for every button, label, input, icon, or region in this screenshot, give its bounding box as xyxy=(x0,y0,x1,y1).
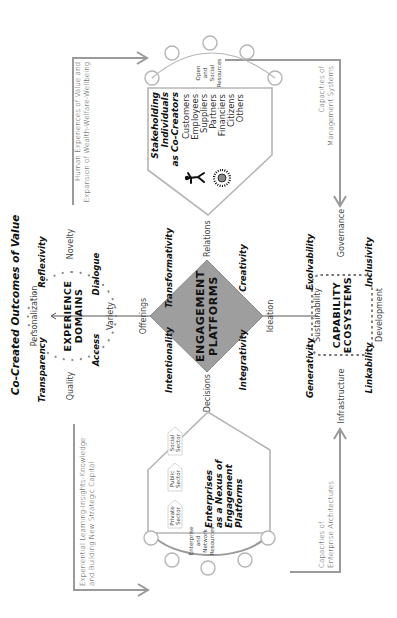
quality-dialogue: Dialogue xyxy=(91,252,101,295)
quality-evolvability: Evolvability xyxy=(305,233,315,290)
enterprise-resources-4: Resources xyxy=(209,527,215,556)
enterprises-title-3: Engagement xyxy=(224,463,234,528)
axis-development: Development xyxy=(375,288,384,342)
experience-domains-label-2: DOMAINS xyxy=(73,289,84,344)
vertex-relations: Relations xyxy=(203,220,212,257)
sector-public: Public Sector xyxy=(168,463,182,491)
enterprises-title-1: Enterprises xyxy=(204,469,214,528)
flow-experiential-line1: Experiential Learning-Insights-Knowledge xyxy=(78,438,87,586)
open-resources-2: and xyxy=(202,67,208,78)
axis-variety: Variety xyxy=(106,302,115,330)
axis-infrastructure: Infrastructure xyxy=(337,369,346,424)
enterprises-title-2: as a Nexus of xyxy=(214,459,224,528)
enterprise-resources-1: Enterprise xyxy=(188,526,195,555)
axis-sustainability: Sustainability xyxy=(313,288,322,342)
engagement-platforms-label-2: PLATFORMS xyxy=(207,276,220,356)
svg-text:Sector: Sector xyxy=(175,469,181,488)
quality-linkability: Linkability xyxy=(364,342,374,393)
quality-transparency: Transparency xyxy=(37,337,47,402)
quality-inclusivity: Inclusivity xyxy=(364,237,374,287)
engagement-platforms-label-1: ENGAGEMENT xyxy=(194,270,207,362)
flow-experiential-line2: and Building New Strategic Capital xyxy=(87,462,96,586)
axis-governance: Governance xyxy=(337,209,346,257)
vertex-decisions: Decisions xyxy=(203,374,212,412)
vertex-offerings: Offerings xyxy=(139,298,148,335)
diagram-stage: Co-Created Outcomes of Value Experientia… xyxy=(0,0,397,618)
capability-ecosystems-label-1: CAPABILITY xyxy=(331,282,342,349)
enterprises-title-4: Platforms xyxy=(234,478,244,528)
stakeholders-title-1: Stakeholding xyxy=(150,91,160,158)
open-resources-1: Open xyxy=(195,65,202,80)
enterprise-resources-3: Network xyxy=(202,529,208,553)
diagram-title: Co-Created Outcomes of Value xyxy=(9,215,21,396)
flow-enterprise-arch-line1: Capacities of xyxy=(317,521,326,568)
sector-social: Social Sector xyxy=(168,427,182,455)
flow-management-line2: Management Systems xyxy=(326,66,335,146)
enterprise-resources-2: and xyxy=(195,535,201,546)
flow-enterprise-arch-line2: Enterprise Architectures xyxy=(326,481,335,568)
flow-human-line1: Human Experiences of Value and xyxy=(73,62,82,181)
quality-creativity: Creativity xyxy=(238,244,248,292)
open-resources-3: Social xyxy=(209,64,215,81)
axis-novelty: Novelty xyxy=(66,228,75,259)
quality-integrativity: Integrativity xyxy=(238,329,248,390)
engagement-platforms-diagram: Co-Created Outcomes of Value Experientia… xyxy=(0,0,397,618)
axis-quality: Quality xyxy=(66,371,75,400)
svg-text:Sector: Sector xyxy=(175,433,181,452)
stakeholders-title-2: Individuals xyxy=(160,91,170,147)
experience-domains-label-1: EXPERIENCE xyxy=(62,280,73,351)
quality-generativity: Generativity xyxy=(305,338,315,399)
quality-access: Access xyxy=(91,334,101,368)
capability-ecosystems-label-2: ECOSYSTEMS xyxy=(342,277,353,353)
flow-human-line2: Expansion of Wealth-Welfare-Wellbeing xyxy=(82,62,91,202)
vertex-ideation: Ideation xyxy=(266,300,275,333)
stakeholders-title-3: as Co-Creators xyxy=(170,91,180,166)
quality-intentionality: Intentionality xyxy=(164,327,174,393)
quality-transformativity: Transformativity xyxy=(164,228,174,309)
open-resources-4: Resources xyxy=(216,59,222,88)
sector-private: Private Sector xyxy=(168,500,182,528)
flow-management-line1: Capacities of xyxy=(317,66,326,113)
svg-text:Sector: Sector xyxy=(175,506,181,525)
stakeholder-others: Others xyxy=(235,94,245,122)
quality-reflexivity: Reflexivity xyxy=(37,236,47,288)
